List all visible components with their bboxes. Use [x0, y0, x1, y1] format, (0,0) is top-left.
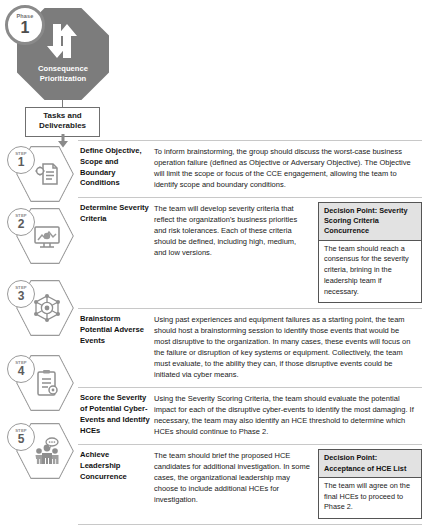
table-row: Define Objective, Scope and Boundary Con…: [78, 140, 422, 197]
decision-point-box: Decision Point: Acceptance of HCE List T…: [318, 449, 422, 519]
step-badge-number-3: 3: [18, 290, 25, 302]
step-title: Achieve Leadership Concurrence: [78, 445, 154, 524]
process-steps-table: Define Objective, Scope and Boundary Con…: [78, 140, 422, 525]
tasks-box-line1: Tasks and: [28, 111, 97, 121]
decision-point-box: Decision Point: Severity Scoring Criteri…: [318, 202, 422, 303]
step-marker-2: STEP 2: [6, 206, 76, 268]
step-badge-3: STEP 3: [7, 280, 35, 308]
step-title: Score the Severity of Potential Cyber-Ev…: [78, 388, 154, 444]
phase-title: Consequence Prioritization: [17, 64, 109, 85]
phase-badge-number: 1: [21, 20, 30, 36]
step-badge-2: STEP 2: [7, 208, 35, 236]
step-marker-5: STEP 5: [6, 421, 76, 483]
step-badge-number-1: 1: [18, 156, 25, 168]
decision-point-body: The team will agree on the final HCEs to…: [319, 478, 421, 518]
phase-badge: Phase 1: [5, 5, 45, 45]
step-description: The team should brief the proposed HCE c…: [154, 445, 318, 524]
clipboard-gear-icon: [30, 366, 64, 400]
tasks-box-line2: Deliverables: [28, 121, 97, 131]
phase-title-line1: Consequence: [17, 64, 109, 74]
step-title: Determine Severity Criteria: [78, 198, 154, 308]
step-title: Define Objective, Scope and Boundary Con…: [78, 141, 154, 197]
step-title: Brainstorm Potential Adverse Events: [78, 309, 154, 387]
table-row: Achieve Leadership Concurrence The team …: [78, 444, 422, 525]
step-description: Using past experiences and equipment fai…: [154, 309, 422, 387]
phase-header: Consequence Prioritization Phase 1 Tasks…: [0, 0, 140, 134]
decision-point-heading: Decision Point: Severity Scoring Criteri…: [319, 203, 421, 241]
step-badge-number-2: 2: [18, 218, 25, 230]
decision-point-heading: Decision Point: Acceptance of HCE List: [319, 450, 421, 477]
step-badge-5: STEP 5: [7, 423, 35, 451]
table-row: Determine Severity Criteria The team wil…: [78, 197, 422, 308]
document-gear-icon: [30, 157, 64, 191]
step-marker-1: STEP 1: [6, 144, 76, 206]
phase-title-line2: Prioritization: [17, 74, 109, 84]
step-description: The team will develop severity criteria …: [154, 198, 318, 308]
step-badge-number-5: 5: [18, 433, 25, 445]
table-row: Brainstorm Potential Adverse Events Usin…: [78, 308, 422, 387]
step-marker-4: STEP 4: [6, 353, 76, 415]
step-badge-4: STEP 4: [7, 355, 35, 383]
step-marker-3: STEP 3: [6, 278, 76, 340]
decision-point-body: The team should reach a consensus for th…: [319, 241, 421, 303]
step-description: Using the Severity Scoring Criteria, the…: [154, 388, 422, 444]
tasks-and-deliverables-box: Tasks and Deliverables: [25, 107, 100, 137]
table-row: Score the Severity of Potential Cyber-Ev…: [78, 387, 422, 444]
monitor-gear-icon: [30, 219, 64, 253]
step-badge-1: STEP 1: [7, 146, 35, 174]
network-gear-icon: [30, 291, 64, 325]
people-discussion-icon: [30, 434, 64, 468]
step-description: To inform brainstorming, the group shoul…: [154, 141, 422, 197]
step-badge-number-4: 4: [18, 365, 25, 377]
